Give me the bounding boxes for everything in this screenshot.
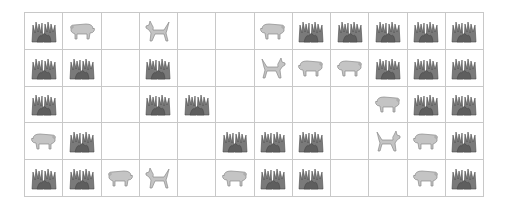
dog-icon <box>374 129 402 153</box>
board-cell[interactable] <box>369 50 407 87</box>
board-cell[interactable] <box>102 160 140 197</box>
pig-icon <box>412 166 440 190</box>
board-cell[interactable] <box>216 87 254 124</box>
board-cell[interactable] <box>255 87 293 124</box>
dog-icon <box>144 166 172 190</box>
board-cell[interactable] <box>255 160 293 197</box>
grass-icon <box>450 56 478 80</box>
board-cell[interactable] <box>102 123 140 160</box>
board-cell[interactable] <box>255 50 293 87</box>
pig-icon <box>30 129 58 153</box>
board-cell[interactable] <box>331 123 369 160</box>
pig-icon <box>68 19 96 43</box>
grass-icon <box>68 166 96 190</box>
board-cell[interactable] <box>331 87 369 124</box>
board-cell[interactable] <box>293 13 331 50</box>
board-cell[interactable] <box>408 160 446 197</box>
board-cell[interactable] <box>140 160 178 197</box>
grass-icon <box>297 129 325 153</box>
board-cell[interactable] <box>255 123 293 160</box>
pig-icon <box>221 166 249 190</box>
grass-icon <box>412 19 440 43</box>
grass-icon <box>30 19 58 43</box>
grass-icon <box>450 92 478 116</box>
grass-icon <box>450 129 478 153</box>
board-cell[interactable] <box>178 87 216 124</box>
board-cell[interactable] <box>63 123 101 160</box>
board-cell[interactable] <box>408 123 446 160</box>
board-cell[interactable] <box>140 13 178 50</box>
game-board <box>24 12 484 197</box>
board-cell[interactable] <box>216 123 254 160</box>
board-cell[interactable] <box>25 87 63 124</box>
grass-icon <box>259 166 287 190</box>
board-cell[interactable] <box>255 13 293 50</box>
board-cell[interactable] <box>216 13 254 50</box>
grass-icon <box>30 166 58 190</box>
board-cell[interactable] <box>369 160 407 197</box>
board-cell[interactable] <box>408 13 446 50</box>
board-cell[interactable] <box>293 87 331 124</box>
board-cell[interactable] <box>140 123 178 160</box>
board-cell[interactable] <box>408 50 446 87</box>
board-cell[interactable] <box>408 87 446 124</box>
board-cell[interactable] <box>178 50 216 87</box>
board-cell[interactable] <box>446 123 484 160</box>
grass-icon <box>183 92 211 116</box>
grass-icon <box>144 56 172 80</box>
board-cell[interactable] <box>102 87 140 124</box>
grass-icon <box>336 19 364 43</box>
board-cell[interactable] <box>63 13 101 50</box>
grass-icon <box>221 129 249 153</box>
board-cell[interactable] <box>63 87 101 124</box>
pig-icon <box>412 129 440 153</box>
board-cell[interactable] <box>369 87 407 124</box>
grass-icon <box>412 56 440 80</box>
grass-icon <box>450 19 478 43</box>
pig-icon <box>297 56 325 80</box>
board-cell[interactable] <box>369 13 407 50</box>
grass-icon <box>30 92 58 116</box>
grass-icon <box>68 56 96 80</box>
board-cell[interactable] <box>25 50 63 87</box>
pig-icon <box>106 166 134 190</box>
board-cell[interactable] <box>102 13 140 50</box>
grass-icon <box>144 92 172 116</box>
board-cell[interactable] <box>446 87 484 124</box>
board-cell[interactable] <box>140 50 178 87</box>
board-cell[interactable] <box>178 13 216 50</box>
board-cell[interactable] <box>293 160 331 197</box>
board-cell[interactable] <box>25 13 63 50</box>
board-cell[interactable] <box>25 160 63 197</box>
grass-icon <box>68 129 96 153</box>
board-cell[interactable] <box>331 13 369 50</box>
board-cell[interactable] <box>25 123 63 160</box>
grass-icon <box>297 19 325 43</box>
pig-icon <box>336 56 364 80</box>
grass-icon <box>30 56 58 80</box>
board-cell[interactable] <box>293 123 331 160</box>
board-cell[interactable] <box>102 50 140 87</box>
board-cell[interactable] <box>446 160 484 197</box>
pig-icon <box>374 92 402 116</box>
board-cell[interactable] <box>63 50 101 87</box>
grass-icon <box>374 19 402 43</box>
grass-icon <box>450 166 478 190</box>
board-cell[interactable] <box>178 123 216 160</box>
pig-icon <box>259 19 287 43</box>
board-cell[interactable] <box>63 160 101 197</box>
dog-icon <box>144 19 172 43</box>
grass-icon <box>412 92 440 116</box>
board-cell[interactable] <box>216 160 254 197</box>
grass-icon <box>259 129 287 153</box>
board-cell[interactable] <box>446 13 484 50</box>
board-cell[interactable] <box>446 50 484 87</box>
board-cell[interactable] <box>140 87 178 124</box>
board-cell[interactable] <box>369 123 407 160</box>
grass-icon <box>297 166 325 190</box>
board-cell[interactable] <box>293 50 331 87</box>
board-cell[interactable] <box>216 50 254 87</box>
board-cell[interactable] <box>178 160 216 197</box>
board-cell[interactable] <box>331 50 369 87</box>
board-cell[interactable] <box>331 160 369 197</box>
